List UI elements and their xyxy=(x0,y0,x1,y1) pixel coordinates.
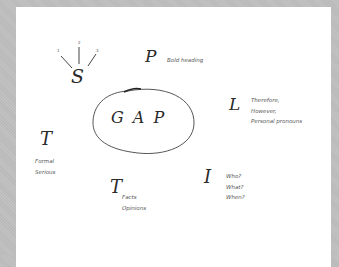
note-opinions: Opinions xyxy=(122,203,146,214)
note-however: However, xyxy=(251,106,302,117)
letter-s: S xyxy=(71,65,84,87)
note-what: What? xyxy=(226,182,245,193)
note-personal-pronouns: Personal pronouns xyxy=(251,116,302,127)
letter-t-formal: T xyxy=(40,128,52,149)
note-facts: Facts xyxy=(122,192,146,203)
letter-p: P xyxy=(145,46,156,66)
ray-label-1: 1 xyxy=(57,48,60,53)
letter-t-facts: T xyxy=(110,176,122,197)
note-formal: Formal xyxy=(35,156,55,167)
t-facts-notes: Facts Opinions xyxy=(122,192,146,213)
ray-label-2: 2 xyxy=(78,40,81,45)
note-serious: Serious xyxy=(35,167,55,178)
ray-label-3: 3 xyxy=(96,48,99,53)
i-notes: Who? What? When? xyxy=(226,171,245,203)
letter-i: I xyxy=(204,166,211,187)
note-bold-heading: Bold heading xyxy=(167,55,203,66)
letter-l: L xyxy=(229,94,240,114)
note-therefore: Therefore, xyxy=(251,95,302,106)
note-when: When? xyxy=(226,192,245,203)
center-label-gap: G A P xyxy=(111,108,166,127)
ray-3 xyxy=(88,54,96,66)
t-formal-notes: Formal Serious xyxy=(35,156,55,177)
note-who: Who? xyxy=(226,171,245,182)
l-notes: Therefore, However, Personal pronouns xyxy=(251,95,302,127)
